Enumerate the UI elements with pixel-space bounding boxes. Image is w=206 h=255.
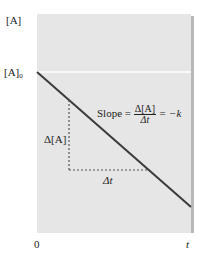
a0-label: [A]0: [4, 66, 23, 82]
slope-equation: Slope = Δ[A] Δt = −k: [97, 104, 181, 125]
delta-a-label: Δ[A]: [44, 133, 66, 145]
slope-denominator: Δt: [134, 115, 156, 125]
x-end-label: t: [186, 238, 189, 250]
x-origin-label: 0: [34, 238, 40, 250]
slope-prefix: Slope =: [97, 107, 131, 119]
a0-subscript: 0: [19, 72, 23, 80]
y-axis-label: [A]: [6, 14, 21, 26]
chart-svg: [0, 0, 206, 255]
a0-base: [A]: [4, 66, 19, 78]
delta-t-label: Δt: [103, 174, 113, 186]
slope-suffix: = −k: [159, 107, 181, 119]
slope-fraction: Δ[A] Δt: [134, 104, 156, 125]
